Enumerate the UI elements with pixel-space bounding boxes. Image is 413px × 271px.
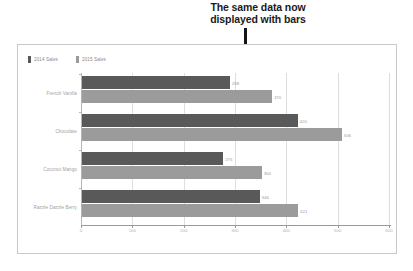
- plot-area: 0100200300400500600French Vanilla288370C…: [81, 73, 389, 225]
- legend-label: 2014 Sales: [34, 57, 58, 62]
- bar-value-label: 346: [262, 194, 269, 199]
- legend-item-0[interactable]: 2014 Sales: [28, 56, 58, 63]
- bar-value-label: 288: [232, 80, 239, 85]
- category-group: French Vanilla288370: [82, 74, 390, 112]
- bar[interactable]: 275: [82, 152, 223, 165]
- x-axis-tick-label: 200: [180, 228, 187, 233]
- legend-swatch-icon: [76, 56, 79, 63]
- bar[interactable]: 421: [82, 204, 298, 217]
- bar-value-label: 420: [300, 118, 307, 123]
- bar-value-label: 506: [344, 132, 351, 137]
- annotation-callout: The same data now displayed with bars: [188, 1, 328, 25]
- category-group: Coconut Mango275350: [82, 150, 390, 188]
- legend-label: 2015 Sales: [82, 57, 106, 62]
- bar[interactable]: 506: [82, 128, 342, 141]
- category-label: Coconut Mango: [43, 167, 77, 172]
- bar-value-label: 370: [274, 94, 281, 99]
- y-axis-tick: [79, 74, 82, 75]
- category-group: Razzle Dazzle Berry346421: [82, 188, 390, 226]
- annotation-line-1: The same data now: [188, 1, 328, 13]
- x-axis-tick-label: 600: [385, 228, 392, 233]
- bar[interactable]: 370: [82, 90, 272, 103]
- bar-value-label: 275: [225, 156, 232, 161]
- legend-item-1[interactable]: 2015 Sales: [76, 56, 106, 63]
- x-axis-tick-label: 300: [231, 228, 238, 233]
- bar-value-label: 350: [264, 170, 271, 175]
- bar[interactable]: 350: [82, 166, 262, 179]
- annotation-line-2: displayed with bars: [188, 13, 328, 25]
- x-axis-tick-label: 100: [129, 228, 136, 233]
- category-label: Chocolate: [55, 129, 77, 134]
- bar-value-label: 421: [300, 208, 307, 213]
- chart-container: 2014 Sales2015 Sales 0100200300400500600…: [17, 44, 397, 254]
- legend-swatch-icon: [28, 56, 31, 63]
- x-axis-tick-label: 400: [283, 228, 290, 233]
- bar[interactable]: 420: [82, 114, 298, 127]
- category-label: French Vanilla: [47, 91, 77, 96]
- bar[interactable]: 288: [82, 76, 230, 89]
- y-axis-tick: [79, 112, 82, 113]
- y-axis-tick: [79, 150, 82, 151]
- y-axis-tick: [79, 188, 82, 189]
- bar[interactable]: 346: [82, 190, 260, 203]
- category-label: Razzle Dazzle Berry: [33, 205, 77, 210]
- x-axis-tick-label: 0: [80, 228, 82, 233]
- category-group: Chocolate420506: [82, 112, 390, 150]
- x-axis-tick-label: 500: [334, 228, 341, 233]
- chart-legend: 2014 Sales2015 Sales: [28, 56, 106, 63]
